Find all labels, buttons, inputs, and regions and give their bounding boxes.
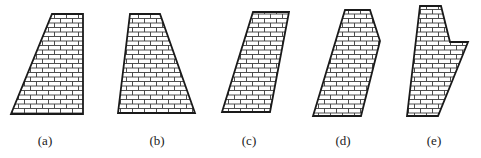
- label-b: (b): [149, 133, 164, 149]
- label-d: (d): [335, 133, 350, 149]
- wall-profile-a: [11, 14, 83, 114]
- retaining-wall-diagram: [0, 0, 481, 158]
- wall-profile-d: [313, 10, 380, 116]
- label-e: (e): [427, 133, 441, 149]
- wall-profile-c: [222, 12, 289, 112]
- wall-profile-e: [407, 6, 468, 116]
- wall-profile-b: [118, 14, 195, 113]
- label-a: (a): [38, 133, 52, 149]
- wall-profiles: [11, 6, 468, 116]
- label-c: (c): [242, 133, 256, 149]
